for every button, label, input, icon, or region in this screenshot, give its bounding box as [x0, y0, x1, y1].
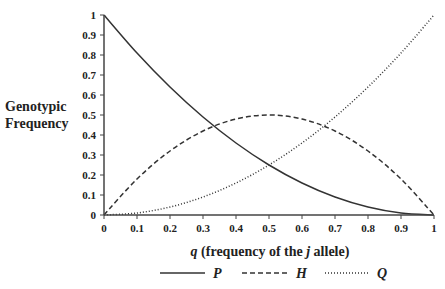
y-tick-label: 0.5	[82, 109, 96, 121]
y-axis: 00.10.20.30.40.50.60.70.80.91	[82, 9, 104, 221]
x-tick-label: 0.1	[130, 222, 144, 234]
series-line-p	[104, 15, 434, 215]
x-axis-title: q (frequency of the j allele)	[191, 244, 350, 260]
x-tick-label: 0.9	[394, 222, 408, 234]
x-axis-title-pre: (frequency of the	[198, 244, 307, 260]
y-tick-label: 0.3	[82, 149, 96, 161]
legend: P H Q	[160, 266, 387, 281]
x-axis-title-var: q	[191, 244, 198, 259]
x-axis: 00.10.20.30.40.50.60.70.80.91	[101, 215, 437, 234]
genotypic-frequency-chart: 00.10.20.30.40.50.60.70.80.91 00.10.20.3…	[0, 0, 445, 289]
y-tick-label: 0.8	[82, 49, 96, 61]
y-tick-label: 0.4	[82, 129, 96, 141]
y-tick-label: 0	[91, 209, 97, 221]
legend-item-q: Q	[325, 266, 387, 281]
x-tick-label: 0.3	[196, 222, 210, 234]
y-axis-title-line2: Frequency	[5, 116, 69, 131]
x-tick-label: 0.8	[361, 222, 375, 234]
x-tick-label: 0.7	[328, 222, 342, 234]
x-tick-label: 0.6	[295, 222, 309, 234]
x-tick-label: 0	[101, 222, 107, 234]
x-tick-label: 1	[431, 222, 437, 234]
series-line-q	[104, 15, 434, 215]
legend-label-h: H	[295, 266, 308, 281]
x-tick-label: 0.5	[262, 222, 276, 234]
legend-item-h: H	[242, 266, 308, 281]
y-tick-label: 0.7	[82, 69, 96, 81]
y-axis-title-line1: Genotypic	[5, 99, 66, 114]
y-tick-label: 0.2	[82, 169, 96, 181]
legend-item-p: P	[160, 266, 222, 281]
x-tick-label: 0.4	[229, 222, 243, 234]
legend-label-q: Q	[377, 266, 387, 281]
y-tick-label: 0.9	[82, 29, 96, 41]
plot-area	[104, 15, 434, 215]
x-tick-label: 0.2	[163, 222, 177, 234]
y-tick-label: 0.6	[82, 89, 96, 101]
y-tick-label: 1	[91, 9, 97, 21]
x-axis-title-post: allele)	[310, 244, 350, 260]
legend-label-p: P	[213, 266, 222, 281]
y-tick-label: 0.1	[82, 189, 96, 201]
